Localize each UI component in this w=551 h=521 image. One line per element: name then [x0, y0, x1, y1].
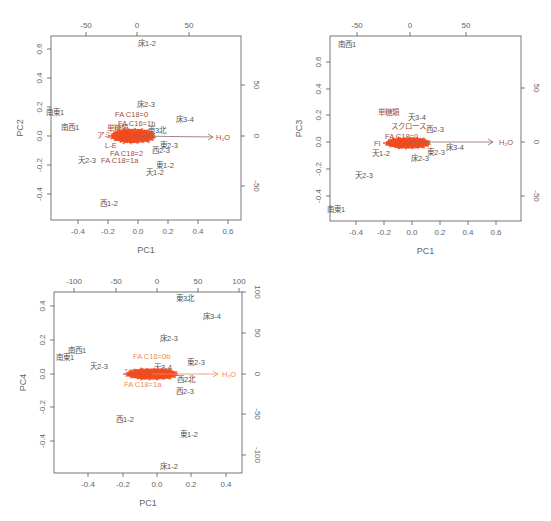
observation-label: 床2-3: [137, 99, 155, 109]
x-tick-label: -0.4: [349, 228, 363, 237]
right-tick-label: 0: [532, 140, 541, 145]
observation-label: 西2-3: [152, 146, 170, 155]
h2o-label: H₂O: [499, 138, 513, 147]
x-tick-label: 0.2: [434, 228, 446, 237]
x-tick-label: -0.2: [116, 480, 130, 489]
x-tick-label: 0.2: [185, 480, 197, 489]
y-tick-label: 0.2: [38, 334, 47, 346]
y-axis-label: PC2: [15, 119, 25, 137]
top-tick-label: -50: [80, 21, 92, 30]
h2o-label: H₂O: [222, 370, 236, 379]
variable-label: FA C16=0b: [133, 352, 170, 361]
x-axis-label: PC1: [137, 245, 155, 255]
y-tick-label: 0.4: [38, 300, 47, 312]
variable-label: FA C18=1a: [124, 380, 162, 389]
observation-label: 床1-2: [160, 461, 178, 471]
top-tick-label: 0: [408, 21, 413, 30]
observation-label: 西2-3: [176, 387, 194, 396]
observation-label: 東3北: [176, 293, 195, 303]
observation-label: 南東1: [56, 352, 74, 362]
observation-label: 床3-4: [446, 142, 464, 152]
observation-label: 西2-3: [426, 125, 444, 134]
variable-label: 単糖類: [378, 107, 400, 117]
x-tick-label: 0.4: [192, 227, 204, 236]
variable-label: FA C18=1a: [101, 156, 139, 165]
observation-label: 床3-4: [176, 114, 194, 124]
y-tick-label: 0.2: [35, 101, 44, 113]
right-tick-label: 0: [252, 134, 261, 139]
observation-label: 天1-2: [146, 168, 164, 177]
h2o-label: H₂O: [216, 133, 230, 142]
biplot-pc1-pc4: -0.4-0.20.00.20.40.40.20.0-0.2-0.4-100-5…: [18, 277, 262, 508]
x-tick-label: -0.2: [101, 227, 115, 236]
top-tick-label: 50: [185, 21, 194, 30]
observation-label: 東2-3: [427, 147, 445, 157]
observation-label: 西1-2: [100, 199, 118, 208]
right-tick-label: -100: [253, 447, 262, 464]
x-axis-label: PC1: [417, 246, 435, 256]
x-tick-label: 0.0: [151, 480, 163, 489]
top-tick-label: -50: [351, 21, 363, 30]
observation-label: 床1-2: [138, 38, 156, 48]
observation-label: 西1-2: [116, 415, 134, 424]
variable-label: FI: [374, 139, 381, 148]
top-tick-label: 100: [232, 277, 246, 286]
plot-frame: [51, 36, 241, 220]
observation-label: 床3-4: [203, 311, 221, 321]
y-tick-label: 0.6: [35, 43, 44, 55]
observation-label: 天2-3: [90, 362, 108, 371]
y-tick-label: -0.2: [314, 162, 323, 176]
y-tick-label: -0.2: [35, 158, 44, 172]
top-tick-label: 0: [135, 21, 140, 30]
biplot-pc1-pc2: -0.4-0.20.00.20.40.60.60.40.20.0-0.2-0.4…: [15, 21, 261, 255]
x-tick-label: 0.4: [462, 228, 474, 237]
top-tick-label: 50: [462, 21, 471, 30]
y-tick-label: -0.4: [38, 434, 47, 448]
right-tick-label: 100: [253, 285, 262, 299]
observation-label: 天1-2: [372, 149, 390, 158]
observation-label: 天3-4: [408, 113, 426, 122]
y-tick-label: 0.4: [314, 83, 323, 95]
x-tick-label: -0.4: [81, 480, 95, 489]
x-tick-label: 0.6: [490, 228, 502, 237]
x-tick-label: 0.4: [220, 480, 232, 489]
top-tick-label: -50: [110, 277, 122, 286]
top-tick-label: 0: [155, 277, 160, 286]
x-tick-label: 0.0: [406, 228, 418, 237]
x-tick-label: 0.6: [222, 227, 234, 236]
biplot-figure: -0.4-0.20.00.20.40.60.60.40.20.0-0.2-0.4…: [0, 0, 551, 521]
right-tick-label: -50: [252, 180, 261, 192]
right-tick-label: -50: [532, 190, 541, 202]
observation-label: 南西1: [338, 39, 356, 49]
observation-label: 南東1: [327, 204, 345, 214]
y-tick-label: 0.0: [314, 136, 323, 148]
x-tick-label: -0.2: [377, 228, 391, 237]
observation-label: 西2北: [177, 375, 196, 384]
y-tick-label: 0.0: [35, 130, 44, 142]
observation-label: 南東1: [46, 107, 64, 117]
observation-label: 東1-2: [180, 429, 198, 439]
right-tick-label: 50: [253, 329, 262, 338]
right-tick-label: 50: [532, 84, 541, 93]
observation-label: 床2-3: [160, 333, 178, 343]
y-tick-label: -0.4: [35, 187, 44, 201]
y-tick-label: 0.4: [35, 72, 44, 84]
observation-label: 東2-3: [187, 357, 205, 367]
y-tick-label: 0.0: [38, 368, 47, 380]
right-tick-label: -50: [253, 408, 262, 420]
variable-label: スクロース: [391, 122, 426, 131]
y-tick-label: -0.4: [314, 189, 323, 203]
x-tick-label: 0.2: [162, 227, 174, 236]
biplot-pc1-pc3: -0.4-0.20.00.20.40.60.60.40.20.0-0.2-0.4…: [294, 21, 541, 256]
y-tick-label: 0.2: [314, 109, 323, 121]
right-tick-label: 50: [252, 81, 261, 90]
top-tick-label: -100: [66, 277, 83, 286]
observation-label: 床2-3: [411, 153, 429, 163]
variable-label: FA C18=0: [115, 110, 148, 119]
top-tick-label: 50: [194, 277, 203, 286]
observation-label: 天2-3: [355, 171, 373, 180]
x-tick-label: 0.0: [132, 227, 144, 236]
x-axis-label: PC1: [139, 498, 157, 508]
y-axis-label: PC4: [18, 374, 28, 392]
y-axis-label: PC3: [294, 120, 304, 138]
